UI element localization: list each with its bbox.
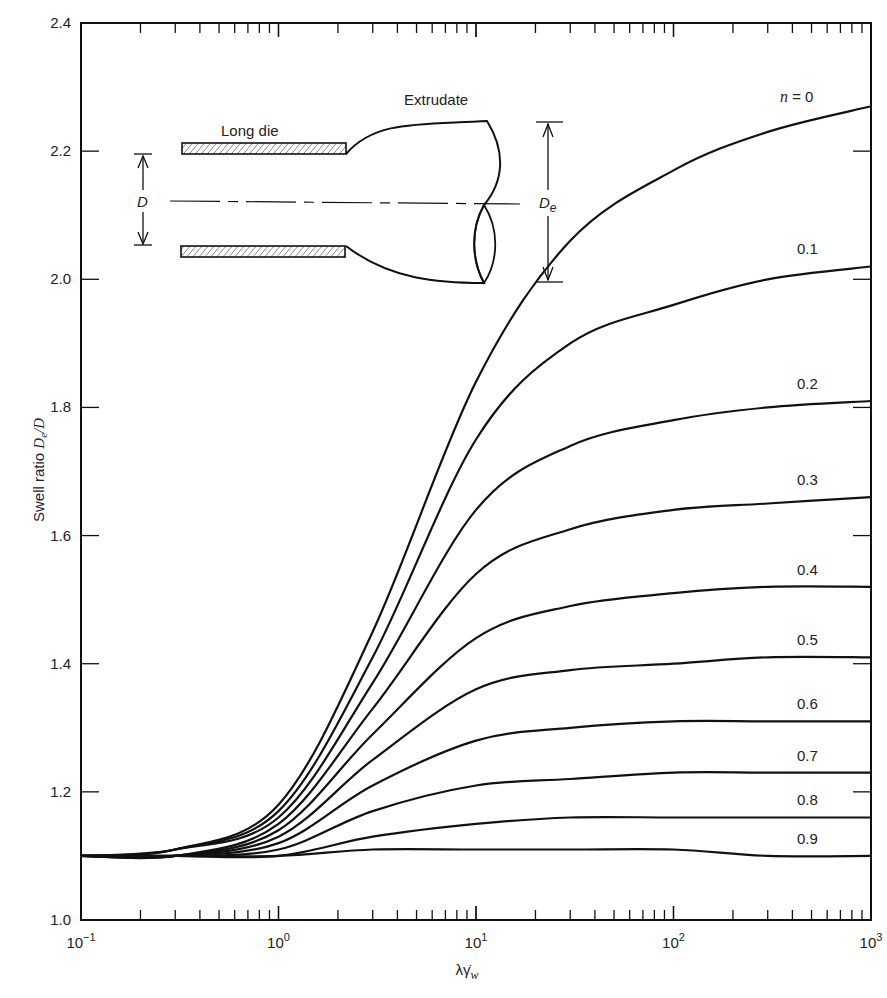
curve-label: 0.7 <box>797 747 818 764</box>
x-axis-title: λγ̇w <box>455 961 478 982</box>
y-tick-label: 1.4 <box>50 655 71 672</box>
x-tick-label: 102 <box>662 931 685 951</box>
y-tick-label: 2.2 <box>50 142 71 159</box>
y-tick-label: 1.8 <box>50 398 71 415</box>
x-axis-top-ticks <box>140 23 862 37</box>
curve-label: 0.8 <box>797 791 818 808</box>
curve-label: 0.1 <box>797 240 818 257</box>
y-axis-tick-labels: 1.01.21.41.61.82.02.22.4 <box>50 14 71 928</box>
de-label-sub: e <box>550 201 557 215</box>
die-wall-top <box>182 143 346 154</box>
curve-label: 0.2 <box>797 375 818 392</box>
die-wall-bottom <box>181 246 345 257</box>
extrudate-label: Extrudate <box>404 91 468 108</box>
y-axis-title-prefix: Swell ratio <box>30 449 47 522</box>
y-tick-label: 1.0 <box>50 911 71 928</box>
x-tick-label: 10−1 <box>66 931 95 951</box>
curve-label: n = 0 <box>780 88 813 105</box>
curve-n-0.5 <box>81 657 871 858</box>
y-axis-right-ticks <box>853 151 871 792</box>
de-label-main: D <box>539 194 550 211</box>
x-tick-label: 100 <box>267 931 290 951</box>
y-tick-label: 1.6 <box>50 527 71 544</box>
extrudate-end-ellipse <box>474 205 495 283</box>
curve-label: 0.9 <box>797 830 818 847</box>
curve-n-0 <box>81 106 871 856</box>
curve-labels: n = 00.10.20.30.40.50.60.70.80.9 <box>780 88 818 847</box>
curve-label: 0.4 <box>797 561 818 578</box>
y-tick-label: 1.2 <box>50 783 71 800</box>
extrudate-outline <box>346 121 500 283</box>
x-axis-tick-labels: 10−1100101102103 <box>66 931 882 951</box>
long-die-label: Long die <box>221 122 279 139</box>
curve-label: 0.6 <box>797 695 818 712</box>
curve-n-0.6 <box>81 721 871 857</box>
curve-n-0.1 <box>81 267 871 856</box>
y-axis-ticks <box>81 151 99 792</box>
x-axis-title-main: λγ̇ <box>455 961 471 978</box>
x-axis-title-sub: w <box>470 968 478 982</box>
curve-label: 0.5 <box>797 631 818 648</box>
x-axis-ticks <box>140 906 862 920</box>
curve-label: 0.3 <box>797 471 818 488</box>
d-label: D <box>137 193 148 210</box>
curve-series <box>81 106 871 858</box>
y-tick-label: 2.0 <box>50 270 71 287</box>
x-tick-label: 101 <box>465 931 488 951</box>
de-label: De <box>539 194 557 215</box>
curve-n-0.3 <box>81 497 871 858</box>
swell-ratio-chart: 10−1100101102103 1.01.21.41.61.82.02.22.… <box>0 0 887 998</box>
y-axis-title: Swell ratio De/D <box>30 418 49 522</box>
centerline <box>170 201 520 204</box>
curve-n-0.2 <box>81 401 871 856</box>
x-tick-label: 103 <box>860 931 883 951</box>
svg-text:Swell ratio De/D: Swell ratio De/D <box>30 418 49 522</box>
y-axis-title-math: De/D <box>31 418 49 450</box>
die-swell-diagram: D De Long die Extrudate <box>134 91 563 283</box>
y-tick-label: 2.4 <box>50 14 71 31</box>
svg-text:λγ̇w: λγ̇w <box>455 961 478 982</box>
